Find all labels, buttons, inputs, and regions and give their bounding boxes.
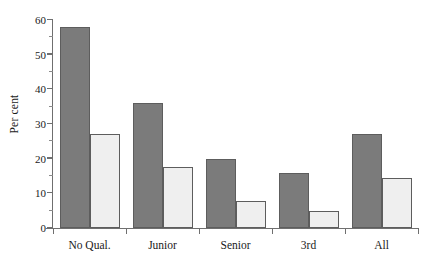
- bar-light: [236, 201, 266, 228]
- x-tick: [199, 228, 200, 234]
- bar-light: [382, 178, 412, 228]
- x-category-label: Junior: [148, 240, 177, 252]
- x-tick: [126, 228, 127, 234]
- y-tick-label: 50: [24, 49, 46, 60]
- y-axis-tick-labels: 0102030405060: [22, 0, 46, 268]
- bar-dark: [279, 173, 309, 228]
- y-tick-label: 60: [24, 15, 46, 26]
- y-axis-line: [52, 19, 53, 229]
- x-tick: [418, 228, 419, 234]
- y-tick-label: 10: [24, 188, 46, 199]
- y-tick-major: [47, 192, 53, 193]
- y-tick-major: [47, 19, 53, 20]
- bar-light: [309, 211, 339, 228]
- y-tick-minor: [49, 210, 53, 211]
- y-tick-minor: [49, 71, 53, 72]
- y-tick-major: [47, 88, 53, 89]
- bar-dark: [133, 103, 163, 228]
- y-axis-title-text: Per cent: [8, 95, 20, 134]
- y-tick-major: [47, 123, 53, 124]
- y-tick-minor: [49, 106, 53, 107]
- x-category-label: All: [374, 240, 389, 252]
- x-tick: [345, 228, 346, 234]
- y-tick-label: 40: [24, 84, 46, 95]
- bar-light: [90, 134, 120, 228]
- y-tick-minor: [49, 36, 53, 37]
- plot-area: [53, 20, 418, 228]
- x-tick: [53, 228, 54, 234]
- bar-dark: [60, 27, 90, 228]
- x-tick: [272, 228, 273, 234]
- y-tick-major: [47, 157, 53, 158]
- x-category-label: Senior: [220, 240, 250, 252]
- y-tick-minor: [49, 175, 53, 176]
- bar-dark: [206, 159, 236, 228]
- y-tick-major: [47, 53, 53, 54]
- y-tick-minor: [49, 140, 53, 141]
- y-tick-label: 20: [24, 153, 46, 164]
- y-tick-label: 0: [24, 223, 46, 234]
- x-axis-line: [46, 228, 418, 229]
- bar-chart: Per cent 0102030405060 No Qual.JuniorSen…: [0, 0, 432, 268]
- bar-light: [163, 167, 193, 228]
- x-category-label: No Qual.: [68, 240, 110, 252]
- bar-dark: [352, 134, 382, 228]
- x-category-label: 3rd: [301, 240, 316, 252]
- y-tick-label: 30: [24, 119, 46, 130]
